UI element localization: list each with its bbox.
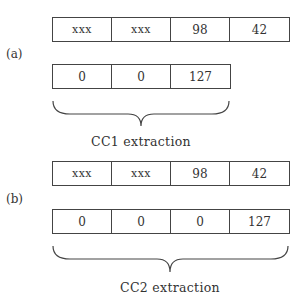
panel-b-caption: CC2 extraction bbox=[110, 280, 230, 295]
panel-b-brace bbox=[0, 0, 302, 302]
